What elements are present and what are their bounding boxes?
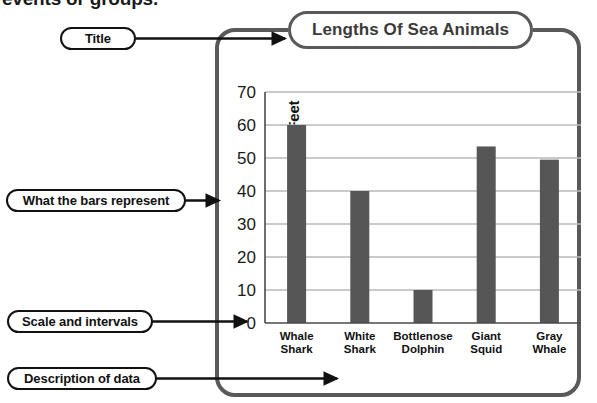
- worksheet-page: events or groups. Lengths Of Sea Animals…: [0, 0, 597, 403]
- callout-description-label: Description of data: [24, 371, 140, 386]
- callout-what-bars-represent: What the bars represent: [6, 189, 186, 212]
- y-tick-label: 70: [237, 83, 256, 102]
- y-tick-label: 10: [237, 281, 256, 300]
- bar: [414, 290, 433, 323]
- y-tick-label: 0: [247, 314, 256, 333]
- y-tick-label: 20: [237, 248, 256, 267]
- x-category-label: Bottlenose: [393, 330, 452, 342]
- bar-chart: Length in Feet 010203040506070 WhaleShar…: [219, 62, 587, 362]
- x-category-label: Whale: [280, 330, 314, 342]
- y-tick-label: 50: [237, 149, 256, 168]
- x-category-label: Whale: [532, 343, 566, 355]
- x-category-label: Shark: [344, 343, 377, 355]
- callout-bars-label: What the bars represent: [23, 193, 170, 208]
- chart-title-text: Lengths Of Sea Animals: [312, 20, 509, 40]
- x-category-label: Shark: [281, 343, 314, 355]
- callout-title: Title: [60, 27, 136, 50]
- x-category-label: White: [344, 330, 375, 342]
- callout-scale-and-intervals: Scale and intervals: [7, 310, 153, 333]
- x-category-label: Gray: [536, 330, 563, 342]
- y-tick-label: 60: [237, 116, 256, 135]
- y-tick-label: 40: [237, 182, 256, 201]
- chart-title-box: Lengths Of Sea Animals: [288, 11, 533, 49]
- y-tick-label: 30: [237, 215, 256, 234]
- bar: [350, 191, 369, 323]
- page-cutoff-text: events or groups.: [2, 0, 158, 10]
- x-category-label: Giant: [472, 330, 502, 342]
- bar: [287, 125, 306, 323]
- gridlines: [265, 92, 581, 290]
- callout-scale-label: Scale and intervals: [22, 314, 138, 329]
- callout-description-of-data: Description of data: [7, 367, 157, 390]
- bar: [477, 146, 496, 323]
- y-axis-ticks: 010203040506070: [237, 83, 256, 333]
- x-axis-category-labels: WhaleSharkWhiteSharkBottlenoseDolphinGia…: [280, 330, 567, 355]
- bar: [540, 160, 559, 323]
- x-category-label: Dolphin: [402, 343, 445, 355]
- x-category-label: Squid: [470, 343, 502, 355]
- callout-title-label: Title: [85, 31, 111, 46]
- plot-area: 010203040506070 WhaleSharkWhiteSharkBott…: [219, 62, 587, 362]
